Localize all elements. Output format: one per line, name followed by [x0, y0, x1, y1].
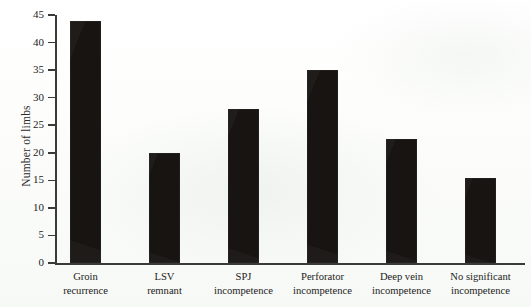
y-tick-label-5: 5 — [4, 229, 44, 240]
y-tick-label-15: 15 — [4, 174, 44, 185]
y-tick-label-25: 25 — [4, 119, 44, 130]
y-tick-45 — [48, 14, 55, 16]
y-tick-label-20: 20 — [4, 147, 44, 158]
y-tick-label-10: 10 — [4, 202, 44, 213]
bar-chart: Number of limbs 051015202530354045 Groin… — [0, 0, 531, 307]
y-tick-20 — [48, 152, 55, 154]
y-tick-label-30: 30 — [4, 92, 44, 103]
bar — [386, 139, 417, 263]
y-tick-label-35: 35 — [4, 64, 44, 75]
y-tick-0 — [48, 262, 55, 264]
bar — [70, 21, 101, 263]
y-tick-40 — [48, 42, 55, 44]
y-tick-label-0: 0 — [4, 257, 44, 268]
bar — [465, 178, 496, 263]
x-axis-label: No significantincompetence — [426, 270, 531, 297]
y-tick-30 — [48, 97, 55, 99]
bar — [228, 109, 259, 263]
y-tick-5 — [48, 235, 55, 237]
bar — [149, 153, 180, 263]
y-tick-15 — [48, 180, 55, 182]
y-tick-label-40: 40 — [4, 37, 44, 48]
y-tick-label-45: 45 — [4, 9, 44, 20]
bar — [307, 70, 338, 263]
x-axis-line — [55, 263, 525, 265]
y-tick-25 — [48, 124, 55, 126]
y-tick-10 — [48, 207, 55, 209]
y-axis-line — [55, 15, 57, 264]
y-tick-35 — [48, 69, 55, 71]
